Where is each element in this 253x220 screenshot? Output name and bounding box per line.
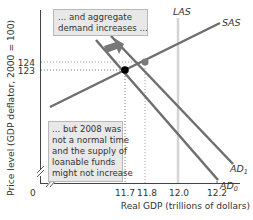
initial-equilibrium-point <box>121 66 129 74</box>
new-equilibrium-point <box>141 58 148 65</box>
callout-top-line-2: demand increases ... <box>58 23 143 34</box>
callout-loanable-funds: ... but 2008 was not a normal time and t… <box>48 121 123 182</box>
y-tick-123: 123 <box>18 66 35 76</box>
y-axis-label: Price level (GDP deflator, 2000 = 100) <box>5 20 16 196</box>
ad1-curve <box>111 36 233 164</box>
x-tick-12-0: 12.0 <box>169 188 189 198</box>
callout-bottom-line-3: and the supply of <box>52 146 119 157</box>
x-tick-11-7: 11.7 <box>115 188 135 198</box>
callout-bottom-line-4: loanable funds <box>52 157 119 168</box>
las-label: LAS <box>173 6 191 17</box>
ad1-label: AD1 <box>229 163 248 176</box>
x-axis-label: Real GDP (trillions of dollars) <box>121 201 250 211</box>
callout-demand-increase: ... and aggregate demand increases ... <box>53 9 148 36</box>
origin-label: 0 <box>30 188 36 198</box>
callout-bottom-line-2: not a normal time <box>52 135 119 146</box>
sas-label: SAS <box>222 17 241 28</box>
callout-bottom-line-1: ... but 2008 was <box>52 124 119 135</box>
x-tick-11-8: 11.8 <box>137 188 157 198</box>
callout-top-line-1: ... and aggregate <box>58 12 143 23</box>
callout-bottom-line-5: might not increase <box>52 168 119 179</box>
